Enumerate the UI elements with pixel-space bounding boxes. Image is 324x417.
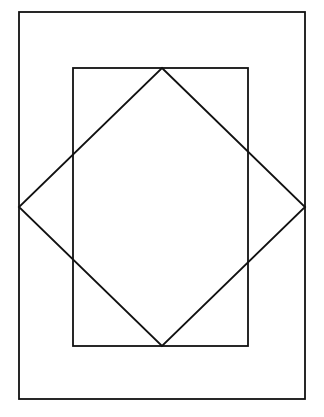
geometric-diagram <box>0 0 324 417</box>
diamond <box>19 68 305 346</box>
outer-rectangle <box>19 12 305 399</box>
inner-rectangle <box>73 68 248 346</box>
